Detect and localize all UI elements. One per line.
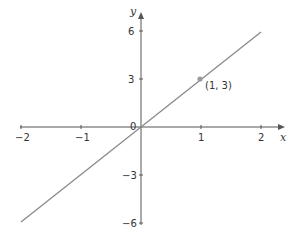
x-tick-label: −2: [15, 132, 30, 143]
x-tick-label: 1: [198, 132, 204, 143]
x-tick-label: 2: [258, 132, 264, 143]
x-axis-arrow-icon: [278, 124, 285, 130]
point-label: (1, 3): [205, 80, 232, 91]
y-tick-label: 6: [128, 26, 134, 37]
y-axis-arrow-icon: [138, 12, 144, 19]
y-tick-label: −3: [122, 170, 137, 181]
y-tick-label: 3: [128, 74, 134, 85]
origin-label: 0: [130, 121, 136, 132]
x-tick-label: −1: [75, 132, 90, 143]
y-tick-label: −6: [122, 218, 137, 229]
chart: −2 −1 1 2 0 6 3 −3 −6 x y (1, 3): [0, 0, 292, 231]
x-axis-label: x: [280, 131, 287, 144]
data-point: [197, 76, 202, 81]
y-axis-label: y: [129, 5, 137, 18]
